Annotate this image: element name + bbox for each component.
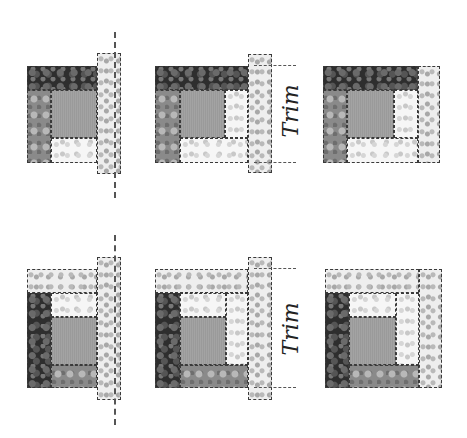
strip-top-dark [155, 66, 248, 90]
new-strip-oversized [248, 257, 272, 400]
strip-right-light [394, 90, 418, 138]
strip-left-dark [27, 293, 51, 388]
strip-left-dark [155, 293, 180, 388]
strip-inner-light [51, 293, 97, 317]
strip-left-dark [325, 293, 349, 388]
strip-bottom-light [180, 138, 248, 163]
strip-bottom-light [347, 138, 418, 163]
center-square [51, 317, 97, 365]
strip-inner-light [180, 293, 226, 317]
strip-top-dark [323, 66, 418, 90]
center-square [349, 317, 396, 365]
trim-guide-bottom [254, 162, 296, 163]
cut-line-dashed [114, 235, 116, 425]
strip-bottom-light [51, 138, 97, 163]
trim-guide-top [254, 268, 296, 269]
strip-top-light [155, 269, 248, 293]
strip-right-light [396, 293, 419, 365]
cut-line-dashed [114, 32, 116, 198]
strip-bottom-medium [51, 365, 97, 388]
trim-label: Trim [278, 88, 303, 138]
trim-label: Trim [278, 306, 303, 356]
trim-guide-bottom [254, 387, 296, 388]
center-square [51, 90, 97, 138]
strip-right-light [225, 90, 248, 138]
center-square [180, 317, 226, 365]
strip-bottom-medium [180, 365, 248, 388]
new-strip-oversized [97, 53, 121, 174]
center-square [180, 90, 225, 138]
strip-left-medium [155, 90, 180, 163]
new-strip-oversized [97, 257, 121, 400]
strip-left-medium [27, 90, 51, 163]
strip-inner-light [349, 293, 396, 317]
strip-trimmed [419, 269, 442, 388]
strip-right-light [226, 293, 248, 365]
center-square [347, 90, 394, 138]
strip-trimmed [418, 66, 440, 163]
strip-left-medium [323, 90, 347, 163]
strip-top-light [325, 269, 419, 293]
strip-top-dark [27, 66, 97, 90]
strip-top-light [27, 269, 97, 293]
strip-bottom-medium [349, 365, 419, 388]
trim-guide-top [254, 65, 296, 66]
new-strip-oversized [248, 54, 272, 173]
